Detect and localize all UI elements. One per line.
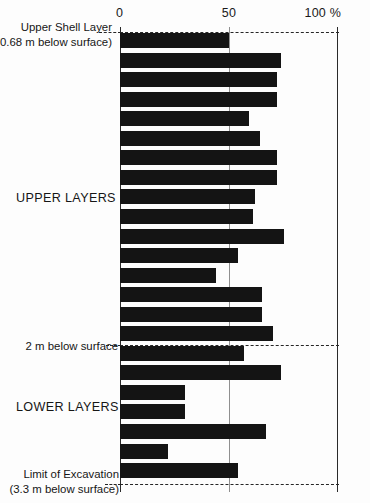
bar: [120, 189, 255, 204]
x-tick-label-100: 100 %: [305, 6, 341, 20]
boundary-limit-of-excavation: [120, 484, 339, 485]
bar: [120, 424, 266, 439]
bar: [120, 404, 185, 419]
bar: [120, 385, 185, 400]
x-tick-label-0: 0: [116, 6, 123, 20]
label-upper-shell-layer-line2: (0.68 m below surface): [0, 35, 112, 50]
bar: [120, 248, 238, 263]
bar: [120, 72, 277, 87]
bar: [120, 33, 229, 48]
bar: [120, 444, 168, 459]
bar: [120, 307, 262, 322]
label-limit-of-excavation-line2: (3.3 m below surface): [0, 482, 119, 497]
bar: [120, 92, 277, 107]
leader-limit-of-excavation: [105, 484, 121, 485]
bar: [120, 53, 281, 68]
leader-upper-shell-layer: [99, 32, 121, 33]
bar: [120, 170, 277, 185]
boundary-upper-shell-layer: [120, 32, 339, 33]
bar: [120, 326, 273, 341]
shell-layer-percentage-chart: Upper Shell Layer (0.68 m below surface)…: [0, 0, 370, 503]
label-upper-shell-layer: Upper Shell Layer (0.68 m below surface): [0, 20, 112, 49]
bar: [120, 229, 284, 244]
label-upper-shell-layer-line1: Upper Shell Layer: [0, 20, 112, 35]
x-tick-label-50: 50: [222, 6, 236, 20]
boundary-2m-below-surface: [120, 345, 339, 346]
bar: [120, 131, 260, 146]
bar: [120, 150, 277, 165]
bar: [120, 365, 281, 380]
bar: [120, 463, 238, 478]
bar-series: [120, 27, 338, 492]
label-limit-of-excavation: Limit of Excavation (3.3 m below surface…: [0, 467, 119, 496]
label-upper-layers: UPPER LAYERS: [16, 191, 116, 205]
label-2m-below-surface: 2 m below surface: [0, 339, 118, 353]
bar: [120, 268, 216, 283]
leader-2m-below-surface: [106, 345, 121, 346]
bar: [120, 287, 262, 302]
bar: [120, 346, 244, 361]
label-limit-of-excavation-line1: Limit of Excavation: [0, 467, 119, 482]
bar: [120, 111, 249, 126]
label-lower-layers: LOWER LAYERS: [16, 400, 119, 414]
bar: [120, 209, 253, 224]
